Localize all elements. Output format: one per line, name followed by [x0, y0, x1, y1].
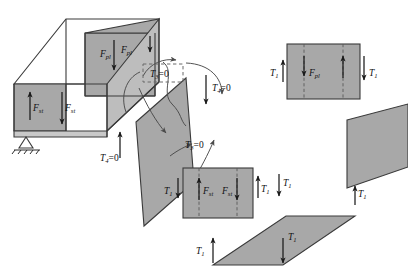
free-body-diagram: Fpl Fpl Fst Fst T3=0: [0, 0, 408, 278]
right-panel: [283, 44, 364, 99]
mid-panel-face: [183, 168, 253, 218]
svg-text:T1: T1: [270, 68, 279, 79]
box-3d: [14, 19, 159, 137]
t1-panel-right-sub: 1: [374, 72, 377, 79]
hatch-4: [30, 150, 33, 154]
svg-text:T1: T1: [261, 184, 270, 195]
svg-text:T3=0: T3=0: [150, 69, 169, 80]
f-st-box-right-sub: st: [71, 107, 76, 114]
t4-right-eq: =0: [221, 83, 231, 93]
hatch-2: [18, 150, 21, 154]
svg-text:T1: T1: [369, 68, 378, 79]
label-t3-mid: T3=0: [185, 140, 204, 151]
svg-text:T4=0: T4=0: [100, 153, 119, 164]
right-slanted-panel-face: [347, 104, 408, 188]
t1-corner-right-sub: 1: [363, 193, 366, 200]
label-f-st-box-right: Fst: [64, 103, 75, 114]
svg-text:T1: T1: [358, 189, 367, 200]
label-t3-dashed-box: T3=0: [150, 69, 169, 80]
t3-box-eq: =0: [159, 69, 169, 79]
t1-panel-left-sub: 1: [275, 72, 278, 79]
f-st-mid-left-sub: st: [209, 190, 214, 197]
label-t1-mid-far-right: T1: [283, 178, 292, 189]
label-t1-bottom-left: T1: [196, 246, 205, 257]
right-panel-face: [287, 44, 360, 99]
svg-text:T3=0: T3=0: [185, 140, 204, 151]
svg-text:T1: T1: [196, 246, 205, 257]
right-slanted-panel: [347, 104, 408, 205]
hatch-5: [36, 150, 39, 154]
t4-left-eq: =0: [109, 153, 119, 163]
t3-mid-eq: =0: [194, 140, 204, 150]
t1-mid-far-right-sub: 1: [288, 182, 291, 189]
bottom-panel-face: [213, 216, 355, 265]
t1-bottom-right-sub: 1: [293, 236, 296, 243]
bottom-panel: [213, 216, 355, 265]
label-t1-panel-left: T1: [270, 68, 279, 79]
f-st-box-left-sub: st: [39, 107, 44, 114]
f-pl-right-panel-sub: pl: [314, 72, 320, 79]
t1-mid-right-sub: 1: [266, 188, 269, 195]
pin-support: [12, 137, 40, 154]
label-t1-corner-right: T1: [358, 189, 367, 200]
label-t1-mid-right: T1: [261, 184, 270, 195]
t1-mid-left-sub: 1: [169, 190, 172, 197]
box-bottom-strip: [14, 131, 107, 137]
svg-text:T1: T1: [283, 178, 292, 189]
svg-text:Fst: Fst: [64, 103, 75, 114]
label-t4-right: T4=0: [212, 83, 231, 94]
label-t1-panel-right: T1: [369, 68, 378, 79]
f-pl-top-left-sub: pl: [105, 53, 111, 60]
pin-support-triangle: [19, 137, 33, 148]
label-t4-left: T4=0: [100, 153, 119, 164]
f-pl-top-right-sub: pl: [126, 49, 132, 56]
hatch-1: [12, 150, 15, 154]
t1-bottom-left-sub: 1: [201, 250, 204, 257]
figure-canvas: Fpl Fpl Fst Fst T3=0: [0, 0, 408, 278]
hatch-3: [24, 150, 27, 154]
f-st-mid-right-sub: st: [228, 190, 233, 197]
svg-text:T4=0: T4=0: [212, 83, 231, 94]
